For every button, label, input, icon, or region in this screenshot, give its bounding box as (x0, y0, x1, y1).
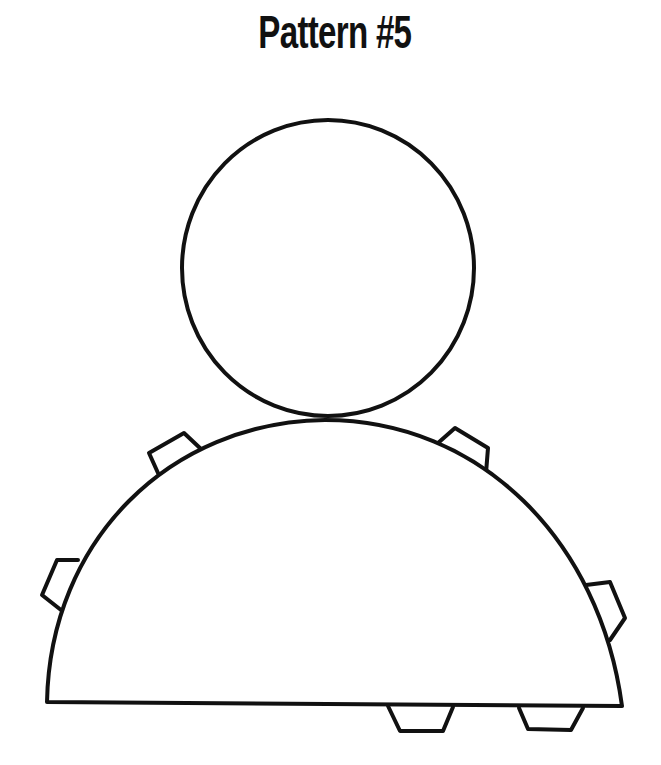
tab-bottom-left (388, 706, 453, 731)
head-circle (182, 120, 474, 416)
pattern-drawing (0, 0, 661, 765)
tab-bottom-right (519, 708, 583, 730)
body-half-circle (47, 420, 622, 706)
